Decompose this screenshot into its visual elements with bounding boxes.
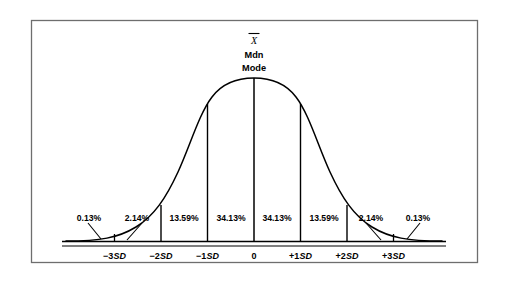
mean-symbol-label: X	[250, 35, 258, 46]
x-axis-tick-label: 0	[251, 251, 256, 261]
tick-sign: −2	[150, 251, 160, 261]
tick-unit: SD	[113, 251, 126, 261]
x-axis-tick-label: −2SD	[150, 251, 173, 261]
tick-unit: SD	[392, 251, 405, 261]
tick-unit: SD	[206, 251, 219, 261]
distribution-chart-svg: X Mdn Mode 0.13% 2.14% 13.59% 34.13% 34.…	[0, 0, 506, 281]
tick-unit: SD	[299, 251, 312, 261]
tick-sign: +3	[382, 251, 392, 261]
tick-unit: SD	[346, 251, 359, 261]
tick-sign: −3	[103, 251, 113, 261]
band-label: 34.13%	[262, 213, 292, 223]
band-label: 0.13%	[406, 213, 431, 223]
band-label: 2.14%	[359, 213, 384, 223]
median-label: Mdn	[245, 50, 264, 60]
tick-sign: 0	[251, 251, 256, 261]
x-axis-tick-label: −1SD	[196, 251, 219, 261]
tick-sign: −1	[196, 251, 206, 261]
normal-distribution-figure: X Mdn Mode 0.13% 2.14% 13.59% 34.13% 34.…	[0, 0, 506, 281]
band-label: 34.13%	[216, 213, 246, 223]
mode-label: Mode	[242, 63, 266, 73]
x-axis-tick-label: −3SD	[103, 251, 126, 261]
band-label: 0.13%	[77, 213, 102, 223]
x-axis-tick-label: +2SD	[336, 251, 359, 261]
tick-sign: +2	[336, 251, 346, 261]
band-label: 13.59%	[309, 213, 339, 223]
x-axis-tick-label: +1SD	[289, 251, 312, 261]
tick-unit: SD	[160, 251, 173, 261]
x-axis-tick-label: +3SD	[382, 251, 405, 261]
tick-sign: +1	[289, 251, 299, 261]
band-label: 13.59%	[169, 213, 199, 223]
band-label: 2.14%	[125, 213, 150, 223]
